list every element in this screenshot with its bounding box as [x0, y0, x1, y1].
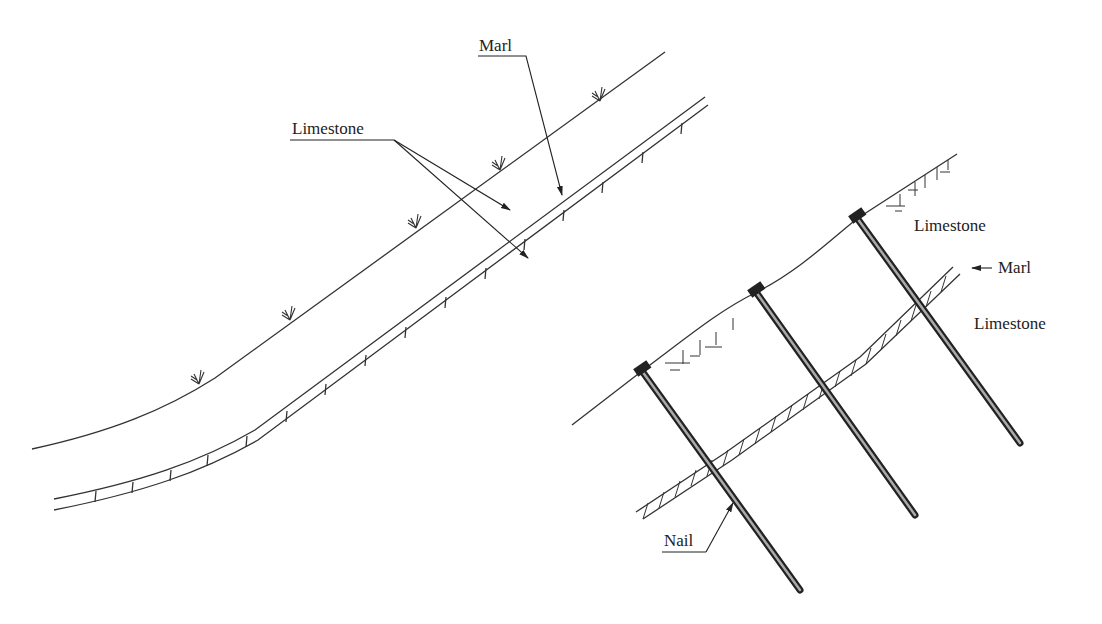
reinforced-marl-hatch: [643, 276, 946, 519]
grass-tuft-icon: [492, 156, 505, 170]
left-leaders: [290, 56, 562, 258]
label-nail: Nail: [664, 532, 693, 549]
right-slope: [572, 154, 960, 519]
grass-tuft-icon: [191, 370, 204, 384]
label-limestone-left: Limestone: [292, 120, 364, 137]
grass-tuft-icon: [592, 87, 605, 101]
marl-layer-top: [54, 97, 705, 499]
limestone-leader-arrow-2: [394, 140, 528, 258]
reinforced-marl-top: [636, 267, 953, 512]
limestone-leader-arrow-1: [394, 140, 510, 210]
label-marl-right: Marl: [998, 259, 1031, 276]
nail-leader-arrow: [706, 503, 733, 552]
reinforced-ground-surface: [572, 154, 957, 425]
grass-tufts: [191, 87, 605, 384]
label-limestone-upper: Limestone: [914, 217, 986, 234]
label-limestone-lower: Limestone: [974, 315, 1046, 332]
rock-surface-hatch: [665, 160, 950, 370]
grass-tuft-icon: [282, 306, 295, 320]
soil-nail-2: [747, 281, 915, 515]
grass-tuft-icon: [408, 214, 421, 228]
right-leaders: [662, 268, 992, 552]
marl-leader-line: [478, 56, 562, 195]
label-marl-left: Marl: [479, 37, 512, 54]
left-slope: [32, 52, 708, 510]
ground-surface-line: [32, 52, 665, 449]
marl-layer-bottom: [54, 105, 708, 510]
reinforced-marl-bottom: [643, 274, 960, 519]
soil-nail-1: [633, 360, 800, 590]
diagram-canvas: [0, 0, 1102, 624]
